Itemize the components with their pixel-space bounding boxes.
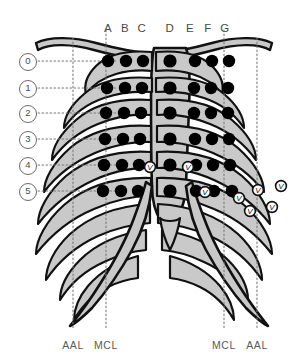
electrode-dot-D0	[163, 54, 176, 67]
electrode-dot-F0	[206, 55, 218, 67]
electrode-dot-B3	[117, 133, 129, 145]
v-marker-8: V	[267, 202, 278, 213]
electrode-dot-F4	[207, 159, 219, 171]
row-label-0: 0	[19, 53, 37, 71]
v-marker-7: V	[245, 206, 256, 217]
row-label-3: 3	[19, 131, 37, 149]
v-marker-6: V	[276, 181, 287, 192]
column-label-C: C	[134, 22, 150, 34]
v-marker-label: V	[247, 207, 253, 216]
electrode-dot-G2	[222, 107, 234, 119]
axis-label-mcl-1: MCL	[89, 339, 123, 351]
column-label-B: B	[117, 22, 133, 34]
v-marker-5: V	[253, 185, 264, 196]
electrode-dot-B5	[115, 185, 127, 197]
axis-label-mcl-2: MCL	[207, 339, 241, 351]
electrode-dot-B2	[118, 107, 130, 119]
column-label-G: G	[217, 22, 233, 34]
electrode-dot-D2	[163, 106, 176, 119]
column-label-E: E	[182, 22, 198, 34]
electrode-dot-A0	[102, 55, 114, 67]
electrode-dot-D4	[163, 158, 176, 171]
electrode-dot-A1	[101, 82, 113, 94]
electrode-dot-F2	[205, 107, 217, 119]
row-label-2: 2	[19, 105, 37, 123]
electrode-dot-E2	[188, 107, 200, 119]
v-marker-label: V	[269, 203, 275, 212]
electrode-dot-C4	[133, 159, 145, 171]
electrode-dot-D1	[163, 81, 176, 94]
axis-label-aal-0: AAL	[56, 339, 90, 351]
electrode-dot-A2	[100, 107, 112, 119]
electrode-dot-G4	[224, 159, 236, 171]
electrode-dot-C2	[135, 107, 147, 119]
column-label-F: F	[200, 22, 216, 34]
column-label-D: D	[162, 22, 178, 34]
electrode-dot-F3	[206, 133, 218, 145]
v-marker-2: V	[183, 162, 194, 173]
electrode-dot-E0	[189, 55, 201, 67]
v-marker-3: V	[200, 187, 211, 198]
anatomy-svg: VVVVVVVV	[0, 0, 308, 361]
electrode-dot-B1	[119, 82, 131, 94]
electrode-dot-E1	[188, 82, 200, 94]
electrode-dot-C0	[137, 55, 149, 67]
electrode-dot-C3	[134, 133, 146, 145]
electrode-dot-D3	[163, 132, 176, 145]
v-marker-4: V	[234, 193, 245, 204]
electrode-dot-B0	[120, 55, 132, 67]
electrode-dot-A3	[99, 133, 111, 145]
column-label-A: A	[100, 22, 116, 34]
v-marker-label: V	[236, 194, 242, 203]
v-marker-label: V	[255, 186, 261, 195]
electrode-dot-D5	[163, 184, 176, 197]
axis-label-aal-3: AAL	[240, 339, 274, 351]
v-marker-label: V	[147, 163, 153, 172]
electrode-dot-E3	[189, 133, 201, 145]
electrode-dot-B4	[116, 159, 128, 171]
v-marker-label: V	[185, 163, 191, 172]
row-label-4: 4	[19, 157, 37, 175]
electrode-dot-A5	[97, 185, 109, 197]
electrode-dot-F1	[205, 82, 217, 94]
v-marker-1: V	[145, 162, 156, 173]
electrode-dot-G3	[223, 133, 235, 145]
v-marker-label: V	[278, 182, 284, 191]
v-marker-label: V	[202, 188, 208, 197]
rib-cage-electrode-diagram: VVVVVVVV ABCDEFG 012345 AALMCLMCLAAL	[0, 0, 308, 361]
electrode-dot-G1	[222, 82, 234, 94]
row-label-5: 5	[19, 183, 37, 201]
electrode-dot-G0	[223, 55, 235, 67]
electrode-dot-A4	[98, 159, 110, 171]
electrode-dot-C1	[136, 82, 148, 94]
electrode-dot-C5	[132, 185, 144, 197]
row-label-1: 1	[19, 80, 37, 98]
